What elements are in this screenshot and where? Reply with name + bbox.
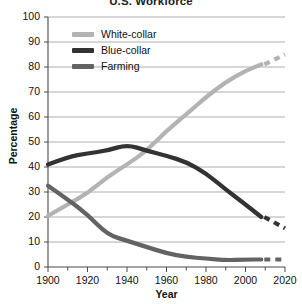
y-tick-90: 90 [10, 35, 40, 47]
x-tick-1940: 1940 [105, 274, 149, 286]
y-tick-80: 80 [10, 60, 40, 72]
legend-item-farming: Farming [72, 59, 156, 73]
x-tick-1980: 1980 [184, 274, 228, 286]
y-tick-70: 70 [10, 85, 40, 97]
legend-item-white-collar: White-collar [72, 27, 156, 41]
chart-container: U.S. Workforce Percentage Year 010203040… [0, 0, 302, 304]
series-white-collar [48, 55, 285, 216]
y-tick-10: 10 [10, 235, 40, 247]
legend-swatch-icon [72, 48, 94, 53]
y-tick-30: 30 [10, 185, 40, 197]
data-series-layer [48, 55, 285, 260]
y-tick-0: 0 [10, 260, 40, 272]
legend-label: White-collar [101, 28, 156, 40]
y-tick-20: 20 [10, 210, 40, 222]
y-tick-50: 50 [10, 135, 40, 147]
legend-label: Farming [101, 60, 140, 72]
chart-legend: White-collarBlue-collarFarming [72, 27, 156, 75]
x-tick-2020: 2020 [263, 274, 302, 286]
legend-swatch-icon [72, 64, 94, 69]
x-tick-1900: 1900 [26, 274, 70, 286]
y-tick-100: 100 [10, 10, 40, 22]
x-axis-label: Year [48, 288, 285, 300]
x-tick-2000: 2000 [224, 274, 268, 286]
legend-item-blue-collar: Blue-collar [72, 43, 156, 57]
x-tick-1960: 1960 [145, 274, 189, 286]
legend-label: Blue-collar [101, 44, 151, 56]
series-blue-collar [48, 146, 285, 228]
chart-title: U.S. Workforce [0, 0, 302, 7]
y-tick-60: 60 [10, 110, 40, 122]
y-tick-40: 40 [10, 160, 40, 172]
legend-swatch-icon [72, 32, 94, 37]
x-tick-1920: 1920 [66, 274, 110, 286]
